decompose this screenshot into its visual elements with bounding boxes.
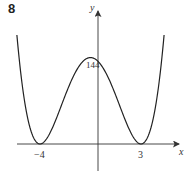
root-left-label: −4 [34, 150, 45, 160]
y-intercept-label: 144 [86, 61, 100, 70]
y-axis-label: y [90, 3, 94, 13]
function-curve [17, 35, 164, 144]
root-right-label: 3 [138, 150, 143, 160]
graph-figure: 8 y x 144 −4 3 [0, 0, 188, 181]
plot-area [0, 0, 188, 181]
x-axis-label: x [179, 147, 183, 157]
